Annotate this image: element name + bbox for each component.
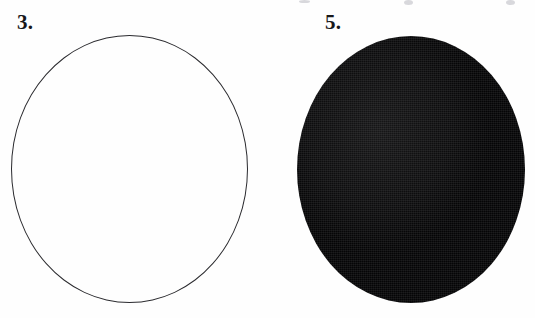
ellipse-rim-overlay: [297, 36, 525, 303]
scan-artifact-mark: [404, 0, 413, 5]
unfilled-ellipse-shape: [11, 35, 248, 303]
scan-artifact-mark: [299, 0, 310, 3]
figure-number-label-5: 5.: [325, 12, 341, 33]
figure-number-label-3: 3.: [17, 12, 33, 33]
scan-artifact-row: [0, 0, 535, 6]
halftone-texture-overlay: [297, 36, 525, 303]
scan-artifact-mark: [506, 0, 515, 5]
scanned-figure-page: 3. 5.: [0, 0, 535, 318]
filled-ellipse-shape: [297, 36, 525, 303]
